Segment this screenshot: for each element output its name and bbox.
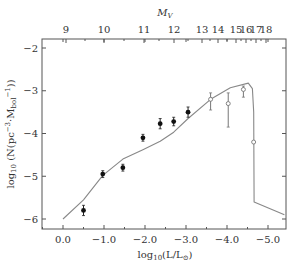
chart: MV 9101112131415161718 0.0−1.0−2.0−3.0−4… [0,0,295,266]
bottom-axis-ticks: 0.0−1.0−2.0−3.0−4.0−5.0 [43,39,281,245]
open-data-point [226,102,230,106]
x-tick-label: 0.0 [55,234,71,245]
top-tick-label: 14 [212,24,225,35]
filled-data-point [120,165,125,170]
plot-frame [42,39,286,229]
top-tick-label: 12 [168,24,181,35]
y-tick-label: −5 [23,171,38,182]
y-tick-label: −2 [23,43,38,54]
open-data-point [209,97,213,101]
top-tick-label: 10 [98,24,111,35]
x-tick-label: −2.0 [133,234,157,245]
top-tick-label: 9 [63,24,69,35]
open-data-point [252,140,256,144]
filled-data-point [100,172,105,177]
data-points [81,86,256,216]
x-tick-label: −3.0 [174,234,198,245]
x-tick-label: −4.0 [215,234,239,245]
filled-data-point [81,208,86,213]
filled-data-point [141,135,146,140]
open-data-point [241,87,245,91]
x-tick-label: −5.0 [256,234,280,245]
top-tick-label: 18 [260,24,273,35]
filled-data-point [186,110,191,115]
top-tick-label: 13 [196,24,209,35]
x-tick-label: −1.0 [92,234,116,245]
y-tick-label: −6 [23,214,38,225]
filled-data-point [171,119,176,124]
top-axis-ticks: 9101112131415161718 [63,24,273,43]
top-axis-title: MV [156,7,173,20]
top-tick-label: 11 [138,24,151,35]
filled-data-point [158,121,163,126]
y-axis-title: log10 (N(pc−3·Mbol−1)) [4,79,18,188]
y-tick-label: −4 [23,128,38,139]
y-tick-label: −3 [23,85,38,96]
x-axis-title: log10(L/L⊙) [138,249,193,262]
model-curve [63,83,284,219]
left-axis-ticks: −2−3−4−5−6 [23,43,286,225]
